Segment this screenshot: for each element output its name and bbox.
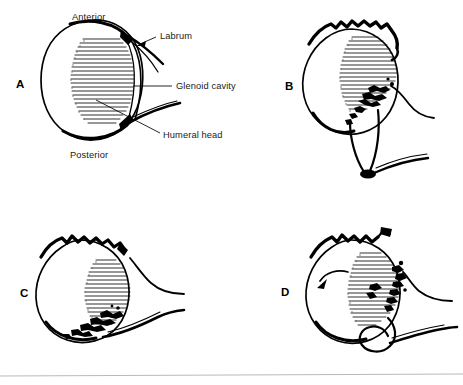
- panel-a-glenoid-hatching: [71, 39, 134, 123]
- panel-a: A: [16, 20, 180, 140]
- panel-d-stipple: [347, 254, 360, 321]
- figure-container: A: [0, 0, 463, 385]
- panel-d-rotation-arrow-head: [317, 279, 327, 289]
- panel-d-glenoid-fossa-superior: [403, 272, 452, 301]
- panel-a-inferior-shading: [63, 125, 127, 138]
- label-glenoid-cavity: Glenoid cavity: [176, 81, 236, 91]
- leader-humeral-head: [96, 100, 160, 133]
- panel-d-rotation-arrow-shaft: [320, 271, 348, 281]
- panel-letter-d: D: [281, 286, 289, 298]
- panel-d: D: [281, 227, 457, 352]
- panel-letter-b: B: [285, 80, 293, 92]
- label-humeral-head: Humeral head: [163, 130, 223, 140]
- panel-c-glenoid-fossa-superior: [130, 258, 184, 294]
- panel-d-inferior-loop: [360, 318, 395, 352]
- panel-letter-a: A: [16, 78, 24, 90]
- panel-b-glenoid-fossa: [391, 86, 434, 118]
- panel-a-stipple: [70, 40, 84, 119]
- panel-c-stipple: [84, 261, 96, 318]
- panel-d-superior-flag-tip: [380, 227, 392, 237]
- panel-a-superior-shading: [70, 21, 129, 38]
- panel-b: B: [285, 21, 434, 179]
- bottom-divider-rule: [0, 374, 463, 376]
- label-labrum: Labrum: [160, 31, 192, 41]
- panel-b-inferior-body-contour-thin: [376, 154, 427, 168]
- label-posterior: Posterior: [70, 150, 108, 160]
- label-anterior: Anterior: [72, 12, 105, 22]
- panel-b-scapular-neck-left: [350, 122, 364, 172]
- panel-d-irregular-superior-contour: [311, 235, 378, 257]
- panel-b-scapular-neck-right: [370, 110, 379, 171]
- panel-letter-c: C: [20, 287, 28, 299]
- panel-c: C: [20, 236, 184, 342]
- anatomical-illustration: A: [0, 0, 463, 385]
- panel-d-labral-fragments: [366, 261, 407, 312]
- panel-d-inferior-body-contour-thin: [392, 325, 444, 338]
